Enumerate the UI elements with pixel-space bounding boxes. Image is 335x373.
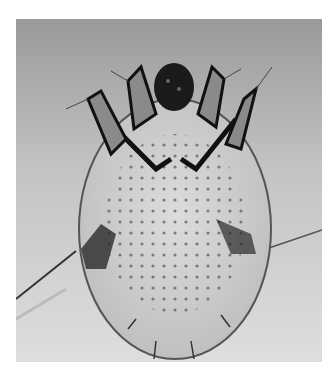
micrograph-image: [16, 19, 322, 362]
